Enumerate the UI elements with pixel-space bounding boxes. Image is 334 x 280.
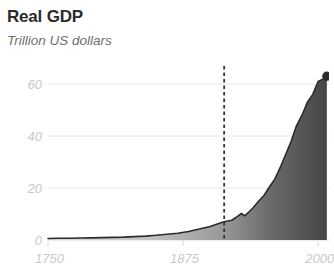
y-tick-label-0: 0 — [0, 233, 42, 248]
x-tick-marks-group — [48, 241, 318, 246]
x-tick-label-1875: 1875 — [170, 251, 199, 266]
x-tick-label-1750: 1750 — [35, 251, 64, 266]
y-tick-label-40: 40 — [0, 129, 42, 144]
y-tick-label-60: 60 — [0, 77, 42, 92]
x-tick-label-2000: 2000 — [305, 251, 334, 266]
y-tick-label-20: 20 — [0, 181, 42, 196]
